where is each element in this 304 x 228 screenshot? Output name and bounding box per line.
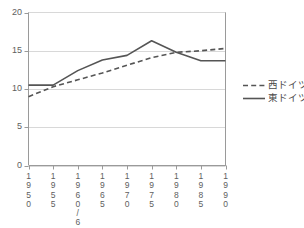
legend-item-west-germany: 西ドイツ: [243, 79, 303, 91]
x-tick-label: 1 9 5 5: [49, 172, 58, 209]
legend-label-east-germany: 東ドイツ: [268, 93, 304, 103]
legend-solid-line-icon: [243, 94, 265, 103]
x-tick-label: 1 9 6 5: [98, 172, 107, 209]
y-tick-label: 0: [0, 161, 22, 170]
x-tick-label: 1 9 8 0: [172, 172, 181, 209]
legend-item-east-germany: 東ドイツ: [243, 92, 303, 104]
chart-legend: 西ドイツ 東ドイツ: [243, 79, 303, 105]
y-tick-marks: [25, 14, 29, 167]
y-tick-label: 20: [0, 8, 22, 17]
y-tick-label: 10: [0, 84, 22, 93]
x-tick-label: 1 9 5 0: [24, 172, 33, 209]
legend-dashed-line-icon: [243, 81, 265, 90]
x-tick-label: 1 9 7 5: [147, 172, 156, 209]
x-tick-label: 1 9 7 0: [123, 172, 132, 209]
axes: [29, 12, 227, 166]
x-tick-label: 1 9 8 5: [196, 172, 205, 209]
y-tick-label: 5: [0, 122, 22, 131]
y-tick-label: 15: [0, 46, 22, 55]
x-tick-label: 1 9 9 0: [221, 172, 230, 209]
series-line-east-germany: [29, 41, 226, 85]
gridlines: [29, 52, 226, 167]
legend-label-west-germany: 西ドイツ: [268, 80, 304, 90]
line-chart: 20151050 1 9 5 01 9 5 51 9 6 0 / 6 11 9 …: [0, 0, 304, 228]
x-tick-label: 1 9 6 0 / 6 1: [73, 172, 82, 228]
